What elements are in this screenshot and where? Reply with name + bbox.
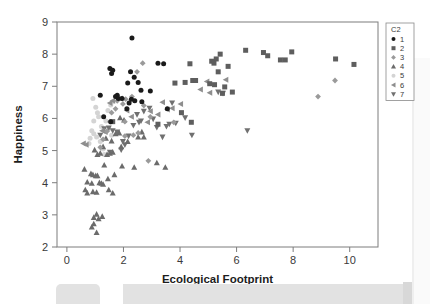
legend: C21234567 <box>386 23 414 100</box>
data-point <box>315 94 321 100</box>
data-point <box>119 163 125 169</box>
data-point <box>165 106 170 111</box>
data-point <box>132 75 137 80</box>
data-point <box>162 164 168 170</box>
y-tick-label: 6 <box>42 112 48 124</box>
legend-label-5: 5 <box>400 71 404 80</box>
data-point <box>89 180 95 186</box>
legend-label-2: 2 <box>400 44 404 53</box>
x-tick-label: 4 <box>177 254 183 266</box>
data-point <box>189 133 195 139</box>
data-point <box>155 61 160 66</box>
data-point <box>179 110 184 115</box>
x-tick-label: 0 <box>64 254 70 266</box>
legend-marker-5 <box>392 74 396 78</box>
data-point <box>136 80 141 85</box>
series-2 <box>110 48 356 127</box>
decoration-block-left <box>56 284 100 304</box>
data-point <box>141 134 147 140</box>
data-point <box>159 135 165 141</box>
data-point <box>109 71 114 76</box>
data-point <box>207 81 212 86</box>
data-point <box>278 57 283 62</box>
y-tick-label: 4 <box>42 177 48 189</box>
legend-label-7: 7 <box>400 90 404 99</box>
data-point <box>124 106 129 111</box>
data-point <box>207 90 213 96</box>
data-point <box>182 115 188 121</box>
data-point <box>109 138 115 144</box>
data-point <box>81 166 87 172</box>
y-tick-label: 2 <box>42 241 48 253</box>
data-point <box>211 61 216 66</box>
y-tick-label: 9 <box>42 16 48 28</box>
data-point <box>113 106 119 112</box>
data-point <box>159 99 165 105</box>
data-point <box>117 115 123 121</box>
y-tick-label: 5 <box>42 145 48 157</box>
data-point <box>265 53 270 58</box>
y-tick-label: 8 <box>42 48 48 60</box>
data-point <box>140 60 146 66</box>
data-point <box>94 135 99 140</box>
chart-stage: 0246810Ecological Footprint23456789Happi… <box>0 0 430 304</box>
y-tick-label: 7 <box>42 80 48 92</box>
data-point <box>177 101 183 107</box>
data-point <box>106 187 112 193</box>
data-point <box>120 101 126 107</box>
data-point <box>216 69 221 74</box>
x-tick-label: 8 <box>290 254 296 266</box>
data-point <box>223 77 229 83</box>
data-point <box>222 84 227 89</box>
x-axis: 0246810Ecological Footprint <box>64 247 356 285</box>
data-point <box>189 120 194 125</box>
scatter-plot: 0246810Ecological Footprint23456789Happi… <box>0 0 430 304</box>
data-point <box>95 110 100 115</box>
x-tick-label: 2 <box>120 254 126 266</box>
data-point <box>94 229 100 235</box>
data-point <box>351 62 356 67</box>
data-point <box>128 69 133 74</box>
data-point <box>155 122 160 127</box>
data-point <box>91 119 96 124</box>
legend-label-3: 3 <box>400 53 404 62</box>
data-point <box>91 221 97 227</box>
data-point <box>283 57 288 62</box>
data-point <box>120 96 125 101</box>
data-point <box>197 87 203 93</box>
data-point <box>244 128 250 134</box>
data-point <box>226 64 231 69</box>
data-point <box>135 130 141 136</box>
data-point <box>154 160 160 166</box>
data-point <box>84 179 90 185</box>
data-point <box>148 89 153 94</box>
data-point <box>128 114 134 120</box>
data-point <box>144 119 150 125</box>
data-point <box>132 98 137 103</box>
data-point <box>98 93 103 98</box>
data-point <box>289 49 294 54</box>
x-tick-label: 6 <box>234 254 240 266</box>
data-point <box>243 48 248 53</box>
data-point <box>105 176 111 182</box>
data-point <box>127 101 132 106</box>
data-point <box>108 119 113 124</box>
data-point <box>169 101 175 107</box>
data-point <box>99 213 105 219</box>
y-tick-label: 3 <box>42 209 48 221</box>
plot-frame <box>57 22 378 247</box>
data-point <box>220 91 225 96</box>
y-axis: 23456789Happiness <box>12 16 57 253</box>
data-point <box>134 112 140 118</box>
data-point <box>96 114 101 119</box>
legend-title: C2 <box>391 25 401 34</box>
data-point <box>111 172 117 178</box>
data-point <box>332 78 338 84</box>
data-point <box>130 132 136 138</box>
legend-label-4: 4 <box>400 62 404 71</box>
data-point <box>187 61 192 66</box>
x-tick-label: 10 <box>344 254 356 266</box>
data-point <box>193 78 198 83</box>
data-point <box>130 123 136 129</box>
data-point <box>212 82 217 87</box>
